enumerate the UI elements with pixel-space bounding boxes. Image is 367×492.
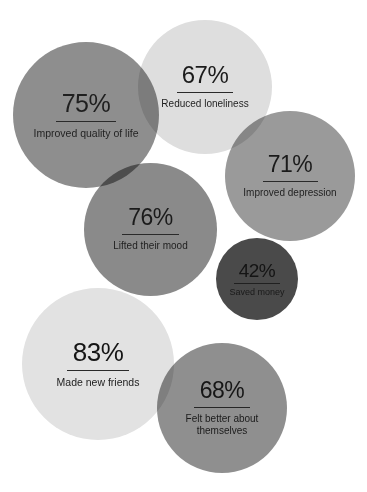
- bubble-value-42: 42%: [239, 261, 276, 280]
- value-underline-rule: [56, 121, 116, 122]
- value-underline-rule: [67, 370, 129, 371]
- bubble-value-71: 71%: [268, 153, 313, 176]
- bubble-value-75: 75%: [62, 91, 111, 116]
- bubble-label-felt-better-about-themselves: Felt better about themselves: [163, 413, 281, 437]
- bubble-saved-money[interactable]: 42% Saved money: [216, 238, 298, 320]
- bubble-label-made-new-friends: Made new friends: [57, 376, 140, 389]
- bubble-lifted-their-mood[interactable]: 76% Lifted their mood: [84, 163, 217, 296]
- bubble-content: 83% Made new friends: [22, 339, 174, 389]
- bubble-chart: 75% Improved quality of life 67% Reduced…: [0, 0, 367, 492]
- bubble-content: 42% Saved money: [216, 261, 298, 298]
- bubble-value-83: 83%: [73, 339, 124, 365]
- bubble-label-reduced-loneliness: Reduced loneliness: [161, 98, 248, 110]
- bubble-label-saved-money: Saved money: [229, 287, 284, 298]
- bubble-content: 67% Reduced loneliness: [138, 63, 272, 110]
- value-underline-rule: [263, 181, 318, 182]
- bubble-content: 76% Lifted their mood: [84, 206, 217, 252]
- bubble-label-improved-quality-of-life: Improved quality of life: [33, 127, 138, 140]
- value-underline-rule: [194, 407, 250, 408]
- value-underline-rule: [177, 92, 233, 93]
- value-underline-rule: [234, 283, 280, 284]
- bubble-content: 71% Improved depression: [225, 153, 355, 199]
- bubble-content: 68% Felt better about themselves: [157, 379, 287, 437]
- bubble-value-76: 76%: [128, 206, 173, 229]
- bubble-label-improved-depression: Improved depression: [243, 187, 336, 199]
- bubble-felt-better-about-themselves[interactable]: 68% Felt better about themselves: [157, 343, 287, 473]
- bubble-value-67: 67%: [182, 63, 229, 87]
- bubble-value-68: 68%: [200, 379, 245, 402]
- bubble-improved-depression[interactable]: 71% Improved depression: [225, 111, 355, 241]
- value-underline-rule: [122, 234, 179, 235]
- bubble-label-lifted-their-mood: Lifted their mood: [113, 240, 188, 252]
- bubble-made-new-friends[interactable]: 83% Made new friends: [22, 288, 174, 440]
